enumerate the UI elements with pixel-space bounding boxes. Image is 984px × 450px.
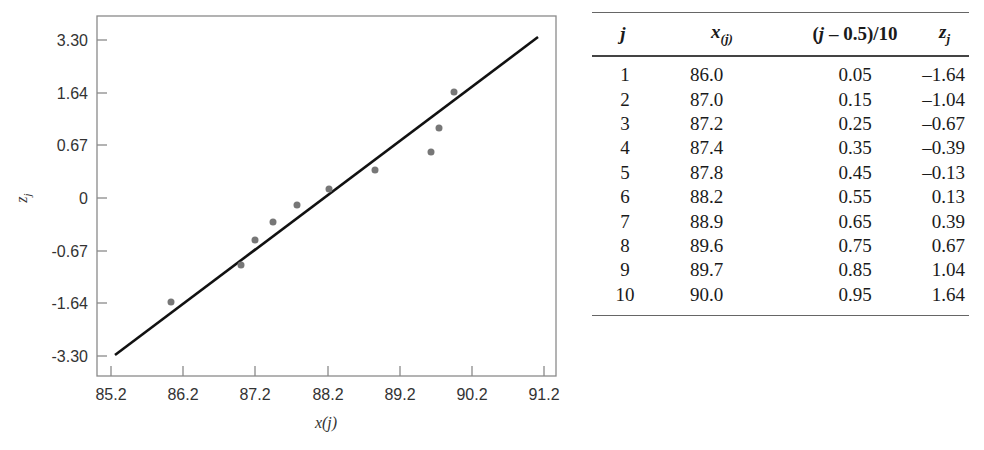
- table-header-row: j x(j) (j – 0.5)/10 zj: [592, 13, 969, 57]
- data-points: [168, 89, 458, 306]
- y-axis-title: zj: [13, 193, 33, 203]
- header-z: zj: [920, 13, 969, 57]
- table-row: 587.80.45–0.13: [592, 161, 969, 185]
- table-row: 287.00.15–1.04: [592, 87, 969, 111]
- y-tick-label: -0.67: [52, 243, 89, 260]
- header-j: j: [592, 13, 654, 57]
- data-table: j x(j) (j – 0.5)/10 zj 186.00.05–1.64 28…: [592, 12, 969, 316]
- x-tick-label: 87.2: [239, 386, 270, 403]
- y-axis: [97, 40, 107, 356]
- x-axis-title: x(j): [314, 414, 337, 432]
- data-table-container: j x(j) (j – 0.5)/10 zj 186.00.05–1.64 28…: [592, 12, 969, 316]
- table-row: 387.20.25–0.67: [592, 112, 969, 136]
- table-row: 186.00.05–1.64: [592, 56, 969, 87]
- data-point: [451, 89, 458, 96]
- x-tick-label: 89.2: [384, 386, 415, 403]
- x-tick-label: 86.2: [167, 386, 198, 403]
- x-axis: [111, 366, 544, 376]
- data-point: [428, 149, 435, 156]
- data-point: [168, 299, 175, 306]
- table-row: 1090.00.951.64: [592, 283, 969, 316]
- table-row: 788.90.650.39: [592, 209, 969, 233]
- data-point: [436, 125, 443, 132]
- data-point: [294, 202, 301, 209]
- x-tick-label: 90.2: [456, 386, 487, 403]
- data-point: [238, 262, 245, 269]
- table-row: 989.70.851.04: [592, 258, 969, 282]
- x-tick-label: 85.2: [95, 386, 126, 403]
- data-point: [372, 167, 379, 174]
- x-tick-label: 88.2: [312, 386, 343, 403]
- y-tick-label: 3.30: [57, 32, 88, 49]
- table-row: 487.40.35–0.39: [592, 136, 969, 160]
- header-probability: (j – 0.5)/10: [790, 13, 920, 57]
- y-tick-label: -1.64: [52, 295, 89, 312]
- header-x: x(j): [654, 13, 790, 57]
- table-row: 688.20.550.13: [592, 185, 969, 209]
- fitted-line: [115, 37, 538, 355]
- y-tick-label: -3.30: [52, 348, 89, 365]
- y-tick-label: 0: [79, 190, 88, 207]
- table-row: 889.60.750.67: [592, 234, 969, 258]
- data-point: [252, 237, 259, 244]
- data-point: [326, 186, 333, 193]
- y-tick-label: 0.67: [57, 137, 88, 154]
- x-tick-label: 91.2: [528, 386, 559, 403]
- data-point: [270, 219, 277, 226]
- normal-probability-plot: 3.30 1.64 0.67 0 -0.67 -1.64 -3.30 85.2 …: [0, 0, 590, 450]
- y-tick-label: 1.64: [57, 85, 88, 102]
